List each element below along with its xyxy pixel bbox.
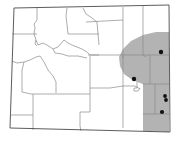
distribution-map: Wyoming county distribution map [0,0,176,148]
record-dot [132,77,136,81]
distribution-range [119,32,169,132]
wyoming-map-svg [0,0,176,148]
record-dot [160,110,164,114]
record-dot [164,98,168,102]
record-dot [159,50,163,54]
record-dot [163,94,167,98]
